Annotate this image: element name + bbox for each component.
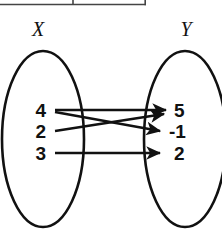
domain-element-1: 2: [35, 121, 46, 142]
set-label-x: X: [31, 18, 45, 40]
mapping-arrows: [55, 110, 166, 153]
diagram-canvas: X Y 4 2 3 5 -1 2: [0, 0, 222, 231]
table-fragment: [0, 0, 146, 5]
domain-element-0: 4: [35, 100, 46, 121]
mapping-diagram-figure: X Y 4 2 3 5 -1 2: [0, 0, 222, 231]
range-element-2: 2: [174, 143, 185, 164]
domain-element-2: 3: [35, 143, 46, 164]
range-element-1: -1: [169, 121, 186, 142]
set-label-y: Y: [180, 18, 193, 40]
range-element-0: 5: [174, 100, 185, 121]
